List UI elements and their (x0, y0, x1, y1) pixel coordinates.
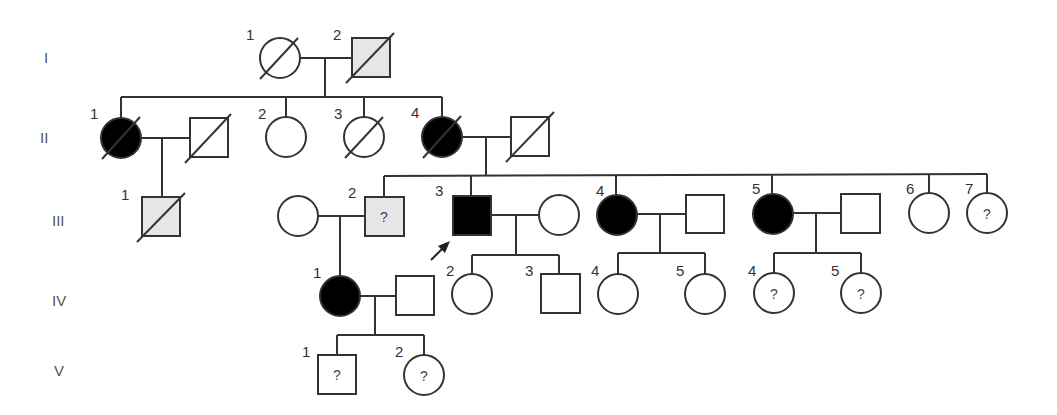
individual-IV-5b[interactable]: ? 5 (831, 262, 881, 313)
svg-text:3: 3 (435, 182, 443, 199)
generation-label-I: I (44, 49, 48, 66)
generation-label-V: V (54, 362, 64, 379)
svg-text:1: 1 (302, 343, 310, 360)
svg-text:6: 6 (906, 180, 914, 197)
svg-text:?: ? (380, 209, 388, 225)
svg-text:4: 4 (591, 262, 599, 279)
svg-text:2: 2 (446, 262, 454, 279)
svg-text:5: 5 (676, 262, 684, 279)
svg-text:2: 2 (258, 105, 266, 122)
svg-text:?: ? (420, 368, 428, 384)
svg-text:5: 5 (752, 180, 760, 197)
svg-text:1: 1 (90, 105, 98, 122)
individual-II-4-spouse[interactable] (506, 112, 554, 162)
individual-II-1-spouse[interactable] (185, 114, 231, 163)
svg-text:?: ? (983, 206, 991, 222)
generation-label-IV: IV (52, 292, 66, 309)
individual-III-4-spouse[interactable] (686, 195, 724, 233)
svg-text:5: 5 (831, 262, 839, 279)
individual-IV-3[interactable]: 3 (525, 262, 580, 313)
generation-label-III: III (52, 212, 65, 229)
individual-I-1[interactable]: 1 (246, 26, 300, 79)
individual-III-2[interactable]: ? 2 (348, 184, 404, 236)
individual-II-1[interactable]: 1 (90, 105, 141, 159)
generation-labels: I II III IV V (40, 49, 66, 379)
individual-III-1[interactable]: 1 (121, 186, 185, 242)
individual-IV-4b[interactable]: ? 4 (748, 262, 794, 313)
svg-text:4: 4 (748, 262, 756, 279)
svg-text:2: 2 (348, 184, 356, 201)
individual-IV-2[interactable]: 2 (446, 262, 492, 314)
individual-III-6[interactable]: 6 (906, 180, 949, 233)
svg-text:7: 7 (965, 180, 973, 197)
pedigree-chart: I II III IV V (0, 0, 1057, 415)
individual-II-4[interactable]: 4 (411, 104, 462, 158)
svg-text:1: 1 (121, 186, 129, 203)
svg-text:2: 2 (333, 26, 341, 43)
individual-II-3[interactable]: 3 (334, 105, 384, 158)
svg-text:?: ? (333, 367, 341, 383)
generation-label-II: II (40, 129, 48, 146)
svg-text:2: 2 (395, 343, 403, 360)
svg-text:3: 3 (525, 262, 533, 279)
svg-text:1: 1 (313, 264, 321, 281)
individual-III-2-spouse[interactable] (278, 196, 318, 236)
individual-II-2[interactable]: 2 (258, 105, 306, 157)
proband-arrow-icon (431, 241, 450, 260)
individual-III-3-proband[interactable]: 3 (435, 182, 491, 235)
svg-text:3: 3 (334, 105, 342, 122)
individual-III-5-spouse[interactable] (841, 194, 880, 233)
svg-text:?: ? (857, 286, 865, 302)
individual-III-3-spouse[interactable] (539, 195, 579, 235)
individual-I-2[interactable]: 2 (333, 26, 394, 83)
individual-IV-4a[interactable]: 4 (591, 262, 638, 314)
individual-IV-5a[interactable]: 5 (676, 262, 725, 314)
svg-text:?: ? (770, 286, 778, 302)
individual-IV-1-spouse[interactable] (396, 276, 434, 315)
individual-V-2[interactable]: ? 2 (395, 343, 444, 395)
svg-text:1: 1 (246, 26, 254, 43)
svg-text:4: 4 (411, 104, 419, 121)
individual-IV-1[interactable]: 1 (313, 264, 360, 316)
individual-V-1[interactable]: ? 1 (302, 343, 356, 394)
svg-text:4: 4 (596, 182, 604, 199)
